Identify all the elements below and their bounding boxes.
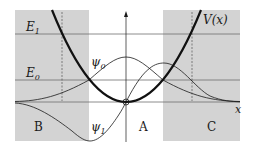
label-psi1: ψ1 [91, 120, 106, 136]
label-potential: V(x) [203, 13, 228, 27]
region-c-shading [163, 10, 240, 141]
label-psi0: ψ0 [91, 55, 106, 71]
label-region-a: A [138, 120, 148, 134]
potential-well-diagram: E1 E0 ψ0 ψ1 V(x) x B A C [0, 0, 255, 152]
y-axis-arrow-icon [124, 11, 128, 17]
label-x-axis: x [235, 103, 242, 116]
label-region-b: B [34, 120, 43, 134]
label-region-c: C [207, 120, 216, 134]
